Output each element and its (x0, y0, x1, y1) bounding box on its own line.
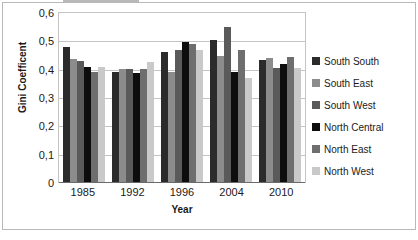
y-tick-label: 0,1 (39, 149, 54, 161)
legend: South SouthSouth EastSouth WestNorth Cen… (312, 50, 414, 182)
bar (182, 42, 189, 182)
x-axis-title: Year (58, 204, 306, 215)
bar (224, 27, 231, 182)
bar (210, 40, 217, 182)
y-tick-label: 0,6 (39, 7, 54, 19)
bar-group-2004 (206, 14, 255, 182)
bar-group-2010 (255, 14, 304, 182)
x-axis-tick-labels: 19851992199620042010 (58, 186, 306, 198)
bar (161, 52, 168, 182)
bar (175, 50, 182, 182)
legend-label: South South (324, 56, 379, 67)
bar (196, 50, 203, 182)
y-tick-label: 0,4 (39, 64, 54, 76)
bar (91, 72, 98, 182)
bar-group-1996 (158, 14, 207, 182)
bar-group-1985 (60, 14, 109, 182)
legend-item: North East (312, 138, 414, 160)
legend-item: North West (312, 160, 414, 182)
bar (280, 64, 287, 182)
bar-groups (60, 14, 304, 182)
legend-swatch-icon (312, 57, 320, 65)
legend-item: South East (312, 72, 414, 94)
bar (273, 68, 280, 182)
legend-swatch-icon (312, 145, 320, 153)
legend-swatch-icon (312, 101, 320, 109)
legend-item: South West (312, 94, 414, 116)
legend-swatch-icon (312, 79, 320, 87)
plot-area: 0,60,50,40,30,20,10 (58, 12, 306, 183)
legend-swatch-icon (312, 123, 320, 131)
x-tick-label: 2010 (256, 186, 306, 198)
x-tick-label: 2004 (207, 186, 257, 198)
plot-area-wrapper: 0,60,50,40,30,20,10 (58, 12, 306, 183)
y-tick-label: 0,5 (39, 35, 54, 47)
legend-label: North West (324, 166, 374, 177)
legend-item: North Central (312, 116, 414, 138)
y-tick-label: 0,2 (39, 120, 54, 132)
x-tick-label: 1992 (108, 186, 158, 198)
bar-group-1992 (109, 14, 158, 182)
bar (238, 50, 245, 182)
x-tick-label: 1996 (157, 186, 207, 198)
y-tick-label: 0,3 (39, 92, 54, 104)
bar (287, 57, 294, 182)
bar (112, 72, 119, 182)
legend-swatch-icon (312, 167, 320, 175)
bar (168, 72, 175, 182)
bar (98, 67, 105, 182)
bar (133, 73, 140, 182)
chart-screenshot: Gini Coefficent 0,60,50,40,30,20,10 1985… (0, 0, 418, 240)
legend-label: South East (324, 78, 373, 89)
bar (126, 69, 133, 182)
legend-label: North Central (324, 122, 383, 133)
bar (119, 69, 126, 182)
y-axis-title: Gini Coefficent (17, 18, 28, 138)
legend-label: South West (324, 100, 376, 111)
bar (294, 68, 301, 182)
legend-label: North East (324, 144, 371, 155)
y-tick-label: 0 (48, 177, 54, 189)
bar (231, 72, 238, 182)
bar (84, 67, 91, 182)
bar (259, 60, 266, 182)
bar (217, 56, 224, 182)
bar (266, 58, 273, 182)
legend-item: South South (312, 50, 414, 72)
bar (189, 44, 196, 182)
x-axis-line (59, 182, 305, 183)
bar (70, 59, 77, 182)
bar (147, 62, 154, 182)
bar (245, 78, 252, 182)
bar (140, 69, 147, 182)
bar (63, 47, 70, 182)
bar (77, 61, 84, 182)
x-tick-label: 1985 (58, 186, 108, 198)
